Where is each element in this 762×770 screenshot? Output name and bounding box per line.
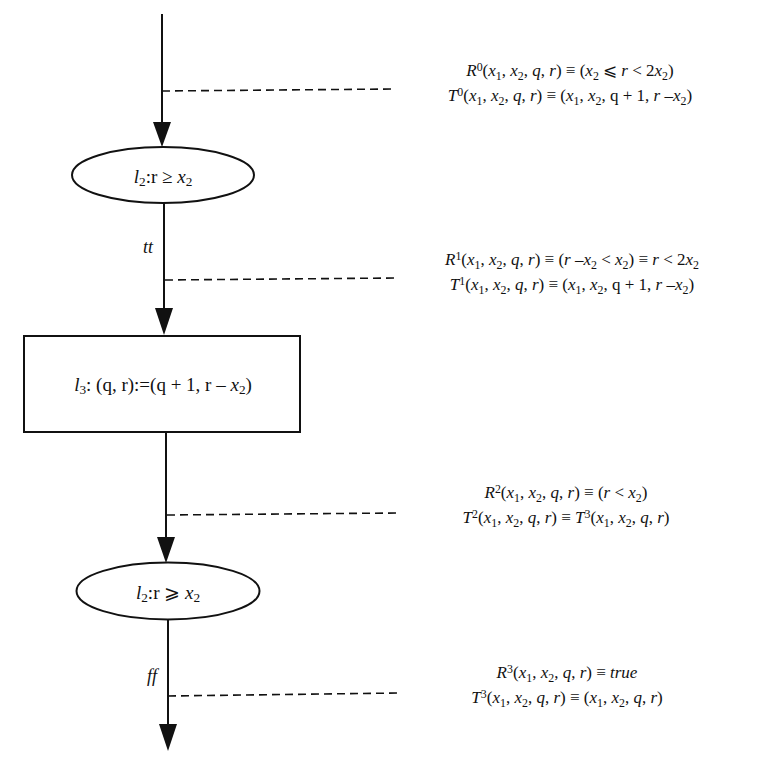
annotation-3-relation: R3(x1, x2, q, r) ≡ true bbox=[471, 664, 662, 689]
annotation-leader-0 bbox=[162, 89, 394, 91]
annotation-0: R0(x1, x2, q, r) ≡ (x2 ⩽ r < 2x2) T0(x1,… bbox=[448, 62, 692, 112]
assignment-node-label: l3: (q, r):=(q + 1, r – x2) bbox=[74, 375, 252, 394]
annotation-1-transform: T1(x1, x2, q, r) ≡ (x1, x2, q + 1, r –x2… bbox=[445, 276, 699, 301]
edge-label-true: tt bbox=[143, 238, 153, 256]
annotation-0-transform: T0(x1, x2, q, r) ≡ (x1, x2, q + 1, r –x2… bbox=[448, 87, 692, 112]
arrowhead-4 bbox=[159, 724, 177, 751]
decision-node-1-label: l2:r ≥ x2 bbox=[134, 167, 193, 186]
annotation-3-transform: T3(x1, x2, q, r) ≡ (x1, x2, q, r) bbox=[471, 689, 662, 714]
arrowhead-2 bbox=[155, 308, 173, 335]
arrowhead-1 bbox=[153, 122, 171, 147]
annotation-0-relation: R0(x1, x2, q, r) ≡ (x2 ⩽ r < 2x2) bbox=[448, 62, 692, 87]
annotation-2-transform: T2(x1, x2, q, r) ≡ T3(x1, x2, q, r) bbox=[463, 509, 670, 534]
annotation-3: R3(x1, x2, q, r) ≡ true T3(x1, x2, q, r)… bbox=[471, 664, 662, 714]
decision-node-2-label: l2:r ⩾ x2 bbox=[136, 583, 200, 602]
annotation-2: R2(x1, x2, q, r) ≡ (r < x2) T2(x1, x2, q… bbox=[463, 484, 670, 534]
arrowhead-3 bbox=[157, 537, 175, 563]
annotation-leader-3 bbox=[168, 693, 401, 696]
annotation-1-relation: R1(x1, x2, q, r) ≡ (r –x2 < x2) ≡ r < 2x… bbox=[445, 251, 699, 276]
edge-label-false: ff bbox=[147, 667, 157, 685]
annotation-leader-1 bbox=[165, 278, 396, 280]
annotation-leader-2 bbox=[167, 513, 397, 515]
annotation-2-relation: R2(x1, x2, q, r) ≡ (r < x2) bbox=[463, 484, 670, 509]
annotation-1: R1(x1, x2, q, r) ≡ (r –x2 < x2) ≡ r < 2x… bbox=[445, 251, 699, 301]
